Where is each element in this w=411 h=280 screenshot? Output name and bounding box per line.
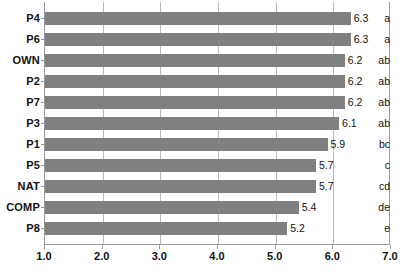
significance-group-labels: aaababababbcccddee — [356, 2, 390, 245]
y-axis-tick — [41, 186, 45, 187]
x-axis-tick-labels: 1.02.03.04.05.06.07.0 — [44, 250, 390, 268]
x-axis-tick-label: 5.0 — [267, 250, 282, 262]
bar[interactable] — [45, 54, 345, 67]
bar-row: 6.2 — [45, 92, 389, 113]
bar-chart: P4P6OWNP2P7P3P1P5NATCOMPP8 6.36.36.26.26… — [0, 0, 411, 280]
x-axis-tick-label: 2.0 — [94, 250, 109, 262]
y-axis-category-label: COMP — [0, 197, 40, 218]
bar-row: 6.3 — [45, 8, 389, 29]
y-axis-category-label: P2 — [0, 71, 40, 92]
x-axis-tick — [217, 245, 218, 249]
bar-value-label: 5.4 — [302, 197, 317, 218]
bar-row: 5.9 — [45, 134, 389, 155]
x-axis-tick — [390, 245, 391, 249]
bar-value-label: 5.9 — [331, 134, 346, 155]
y-axis-tick — [41, 18, 45, 19]
bar-row: 5.7 — [45, 155, 389, 176]
bar[interactable] — [45, 159, 316, 172]
bar-value-label: 5.7 — [319, 176, 334, 197]
y-axis-tick — [41, 81, 45, 82]
bar-row: 6.2 — [45, 71, 389, 92]
y-axis-category-label: P1 — [0, 134, 40, 155]
significance-group-label: e — [356, 218, 390, 239]
x-axis-tick-label: 6.0 — [325, 250, 340, 262]
y-axis-category-label: P3 — [0, 113, 40, 134]
x-axis-tick-label: 3.0 — [152, 250, 167, 262]
bar[interactable] — [45, 117, 339, 130]
significance-group-label: a — [356, 8, 390, 29]
x-axis-tick — [159, 245, 160, 249]
y-axis-category-labels: P4P6OWNP2P7P3P1P5NATCOMPP8 — [0, 2, 40, 245]
x-axis-tick — [44, 245, 45, 249]
bar[interactable] — [45, 75, 345, 88]
bar[interactable] — [45, 96, 345, 109]
significance-group-label: bc — [356, 134, 390, 155]
plot-area: 6.36.36.26.26.26.15.95.75.75.45.2 — [44, 2, 390, 245]
y-axis-category-label: P7 — [0, 92, 40, 113]
bar[interactable] — [45, 180, 316, 193]
significance-group-label: de — [356, 197, 390, 218]
y-axis-tick — [41, 123, 45, 124]
bar[interactable] — [45, 201, 299, 214]
significance-group-label: ab — [356, 71, 390, 92]
x-axis-tick — [102, 245, 103, 249]
bar[interactable] — [45, 222, 287, 235]
x-axis-tick-label: 7.0 — [382, 250, 397, 262]
y-axis-tick — [41, 228, 45, 229]
x-axis-tick-label: 1.0 — [36, 250, 51, 262]
y-axis-category-label: P8 — [0, 218, 40, 239]
y-axis-tick — [41, 207, 45, 208]
y-axis-category-label: P6 — [0, 29, 40, 50]
y-axis-category-label: P5 — [0, 155, 40, 176]
y-axis-category-label: P4 — [0, 8, 40, 29]
y-axis-tick — [41, 102, 45, 103]
significance-group-label: ab — [356, 92, 390, 113]
bar-row: 6.1 — [45, 113, 389, 134]
bar-value-label: 6.1 — [342, 113, 357, 134]
bar-row: 6.3 — [45, 29, 389, 50]
y-axis-category-label: NAT — [0, 176, 40, 197]
y-axis-tick — [41, 39, 45, 40]
bar-row: 5.2 — [45, 218, 389, 239]
bar-value-label: 5.2 — [290, 218, 305, 239]
bar-row: 5.4 — [45, 197, 389, 218]
y-axis-tick — [41, 165, 45, 166]
significance-group-label: a — [356, 29, 390, 50]
significance-group-label: c — [356, 155, 390, 176]
bar-row: 6.2 — [45, 50, 389, 71]
bar-value-label: 5.7 — [319, 155, 334, 176]
x-axis-tick-label: 4.0 — [209, 250, 224, 262]
y-axis-tick — [41, 144, 45, 145]
significance-group-label: ab — [356, 113, 390, 134]
bar-row: 5.7 — [45, 176, 389, 197]
y-axis-tick — [41, 60, 45, 61]
significance-group-label: ab — [356, 50, 390, 71]
significance-group-label: cd — [356, 176, 390, 197]
bar[interactable] — [45, 138, 328, 151]
bar[interactable] — [45, 12, 351, 25]
bar[interactable] — [45, 33, 351, 46]
x-axis-tick — [275, 245, 276, 249]
y-axis-category-label: OWN — [0, 50, 40, 71]
x-axis-tick — [332, 245, 333, 249]
